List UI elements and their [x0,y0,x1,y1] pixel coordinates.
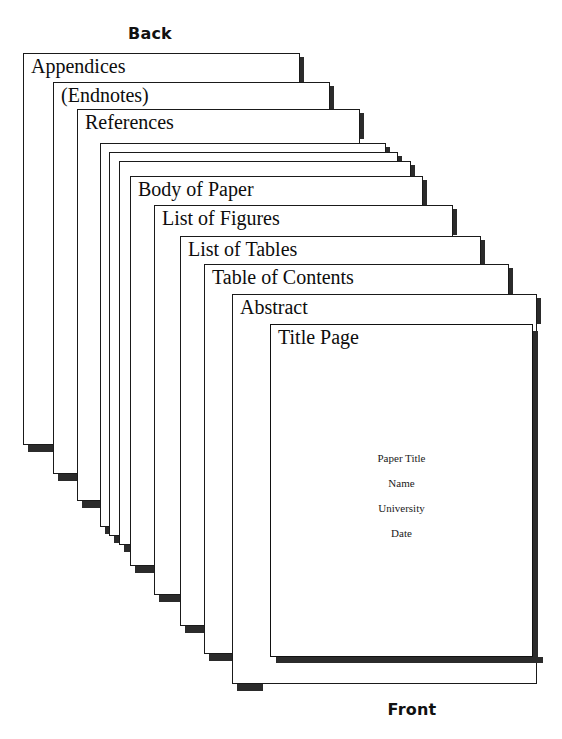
page-shadow-right [509,268,513,294]
page-shadow-right [481,240,485,266]
page-title-page: Title PagePaper TitleNameUniversityDate [270,324,533,657]
page-shadow-right [453,209,457,235]
page-shadow-right [300,57,304,83]
paper-stack-diagram: Back Appendices(Endnotes)ReferencesBody … [0,0,562,739]
page-label: List of Figures [162,207,280,230]
page-label: Body of Paper [138,178,254,201]
page-shadow-right [423,180,427,206]
title-page-line: Name [271,478,532,489]
page-label: References [85,111,174,134]
title-page-line: Paper Title [271,453,532,464]
page-label: Table of Contents [212,266,354,289]
page-label: Appendices [31,55,125,78]
back-label: Back [0,24,300,43]
title-page-text-block: Paper TitleNameUniversityDate [271,453,532,553]
title-page-line: Date [271,528,532,539]
page-shadow-right [537,298,541,324]
page-label: Title Page [278,326,359,349]
page-shadow-right [360,113,364,139]
page-label: List of Tables [188,238,297,261]
page-shadow-bottom [28,445,54,452]
page-label: Abstract [240,296,308,319]
page-label: (Endnotes) [61,84,149,107]
page-shadow-bottom [237,684,263,691]
page-shadow-bottom [276,657,543,663]
title-page-line: University [271,503,532,514]
page-shadow-right [533,331,538,663]
front-label: Front [262,700,562,719]
